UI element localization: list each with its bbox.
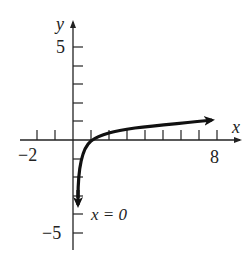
y-axis-label: y [54,14,64,34]
y-tick-label-neg5: −5 [42,223,61,243]
x-tick-label-neg2: −2 [18,145,37,165]
x-tick-label-8: 8 [210,147,219,167]
log-graph: y x 5 −5 −2 8 x = 0 [0,0,252,260]
asymptote-label: x = 0 [90,205,128,224]
y-tick-label-5: 5 [56,37,65,57]
x-axis-label: x [231,117,240,137]
x-ticks [37,130,217,140]
